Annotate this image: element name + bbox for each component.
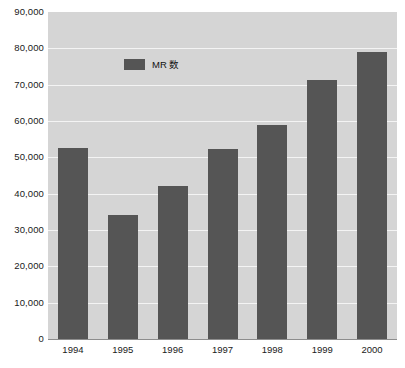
x-axis-tick-label: 1995 — [99, 344, 147, 355]
y-axis-tick-label: 0 — [0, 333, 44, 344]
bar-2000 — [357, 52, 387, 339]
x-axis-tick-label: 1998 — [248, 344, 296, 355]
y-axis-tick-label: 40,000 — [0, 188, 44, 199]
y-axis-tick-label: 70,000 — [0, 79, 44, 90]
chart-title — [0, 0, 405, 6]
y-axis-tick-label: 50,000 — [0, 151, 44, 162]
y-axis-tick-label: 10,000 — [0, 297, 44, 308]
bar-1998 — [257, 125, 287, 339]
bar-1997 — [208, 149, 238, 339]
x-axis-labels: 1994199519961997199819992000 — [48, 344, 397, 364]
x-axis-tick-label: 1999 — [298, 344, 346, 355]
y-axis-labels: 90,00080,00070,00060,00050,00040,00030,0… — [0, 0, 44, 368]
y-axis-tick-label: 80,000 — [0, 42, 44, 53]
bar-1995 — [108, 215, 138, 339]
x-axis-tick-label: 1996 — [149, 344, 197, 355]
bar-1996 — [158, 186, 188, 339]
x-axis-tick-label: 1997 — [199, 344, 247, 355]
y-axis-tick-label: 30,000 — [0, 224, 44, 235]
bar-1994 — [58, 148, 88, 339]
y-axis-tick-label: 20,000 — [0, 260, 44, 271]
x-axis-tick-label: 2000 — [348, 344, 396, 355]
bar-chart: 90,00080,00070,00060,00050,00040,00030,0… — [0, 0, 405, 368]
y-axis-tick-label: 90,000 — [0, 6, 44, 17]
legend-label-mr: MR 数 — [152, 57, 179, 71]
bar-1999 — [307, 80, 337, 339]
y-axis-tick-label: 60,000 — [0, 115, 44, 126]
legend: MR 数 — [124, 57, 179, 71]
legend-swatch-mr — [124, 59, 145, 70]
x-axis-tick-label: 1994 — [49, 344, 97, 355]
x-axis-line — [48, 339, 397, 340]
bars-layer — [48, 12, 397, 339]
